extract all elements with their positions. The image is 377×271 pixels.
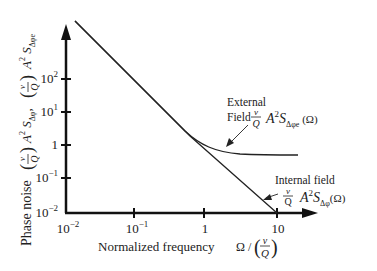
svg-text:Ω /: Ω /	[236, 240, 252, 254]
svg-text:): )	[271, 236, 278, 259]
y-tick-label: 1	[52, 137, 59, 152]
svg-text:A2 SΔφe: A2 SΔφe	[18, 34, 37, 70]
svg-text:Q: Q	[261, 247, 269, 259]
external-field-annotation: External Field ν Q A2SΔφe (Ω)	[226, 96, 318, 147]
y-tick-label: 10−1	[35, 168, 58, 185]
svg-text:ν: ν	[286, 186, 290, 196]
svg-text:A2SΔφ(Ω): A2SΔφ(Ω)	[299, 188, 346, 208]
x-tick-labels: 10−2 10−1 1 10	[57, 219, 285, 236]
svg-text:External: External	[227, 96, 266, 108]
svg-text:(: (	[17, 92, 38, 98]
y-tick-label: 101	[41, 102, 59, 119]
x-axis-arrow-icon	[302, 208, 318, 218]
svg-text:Field: Field	[227, 111, 251, 123]
svg-text:Normalized frequency: Normalized frequency	[98, 239, 215, 254]
svg-text:ν: ν	[263, 235, 268, 246]
x-tick-label: 10	[272, 221, 285, 236]
svg-text:Q: Q	[29, 83, 40, 91]
x-tick-label: 1	[202, 221, 209, 236]
svg-text:A2SΔφe (Ω): A2SΔφe (Ω)	[265, 109, 318, 129]
y-axis-arrow-icon	[61, 24, 71, 40]
internal-field-annotation: Internal field ν Q A2SΔφ(Ω)	[263, 174, 346, 208]
svg-text:A2 SΔφ,: A2 SΔφ,	[18, 108, 37, 144]
phase-noise-chart: 102 101 1 10−1 10−2 10−2 10−1 1 10 Norma…	[0, 0, 377, 271]
pointer-arrow-icon	[226, 138, 234, 147]
y-tick-label: 102	[41, 69, 59, 86]
svg-text:Q: Q	[29, 155, 40, 163]
pointer-arrow-icon	[263, 194, 272, 200]
svg-text:Phase noise: Phase noise	[19, 180, 34, 246]
svg-text:ν: ν	[17, 157, 27, 161]
svg-text:Q: Q	[252, 118, 260, 129]
svg-text:Internal field: Internal field	[275, 174, 335, 186]
x-axis-label: Normalized frequency Ω / ( ν Q )	[98, 235, 278, 259]
x-tick-label: 10−2	[57, 219, 80, 236]
svg-text:(: (	[17, 164, 38, 170]
external-field-curve	[75, 21, 298, 155]
y-tick-label: 10−2	[35, 203, 58, 220]
svg-text:): )	[17, 75, 38, 81]
svg-text:ν: ν	[17, 85, 27, 89]
svg-text:Q: Q	[284, 196, 292, 207]
y-tick-labels: 102 101 1 10−1 10−2	[35, 69, 58, 220]
x-tick-label: 10−1	[126, 219, 149, 236]
svg-text:): )	[17, 147, 38, 153]
svg-text:(: (	[254, 236, 261, 259]
svg-text:ν: ν	[254, 107, 258, 117]
